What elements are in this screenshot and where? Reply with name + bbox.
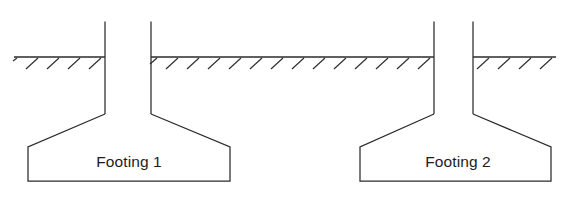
ground-hatch-tick (477, 58, 489, 69)
ground-hatch-tick (313, 58, 325, 69)
ground-hatch-tick (376, 58, 388, 69)
ground-hatch-tick (418, 58, 430, 69)
ground-hatch-tick (334, 58, 346, 69)
ground-hatch-tick (187, 58, 199, 69)
ground-hatch-tick (89, 58, 101, 69)
ground-hatch-tick (68, 58, 80, 69)
ground-hatch-tick (208, 58, 220, 69)
ground-hatch-tick (229, 58, 241, 69)
footing-labels-group: Footing 1Footing 2 (96, 153, 491, 170)
ground-hatch-tick (519, 58, 531, 69)
ground-hatch-tick (47, 58, 59, 69)
ground-hatch-tick (271, 58, 283, 69)
ground-hatch-tick (292, 58, 304, 69)
footing-1-pad-outline (28, 114, 230, 181)
ground-hatch-tick (540, 58, 552, 69)
footing-2-pad-outline (360, 114, 551, 181)
ground-hatch-tick (498, 58, 510, 69)
ground-hatch-tick (166, 58, 178, 69)
footing-1-label: Footing 1 (96, 153, 162, 170)
footing-diagram: Footing 1Footing 2 (0, 0, 576, 199)
ground-hatch-tick (397, 58, 409, 69)
ground-hatch-tick (250, 58, 262, 69)
ground-surface-group (13, 57, 556, 69)
ground-hatch-tick (355, 58, 367, 69)
ground-hatch-tick (26, 58, 38, 69)
diagram-canvas: Footing 1Footing 2 (0, 0, 576, 199)
footing-2-label: Footing 2 (425, 153, 491, 170)
ground-hatch-tick (13, 58, 17, 61)
